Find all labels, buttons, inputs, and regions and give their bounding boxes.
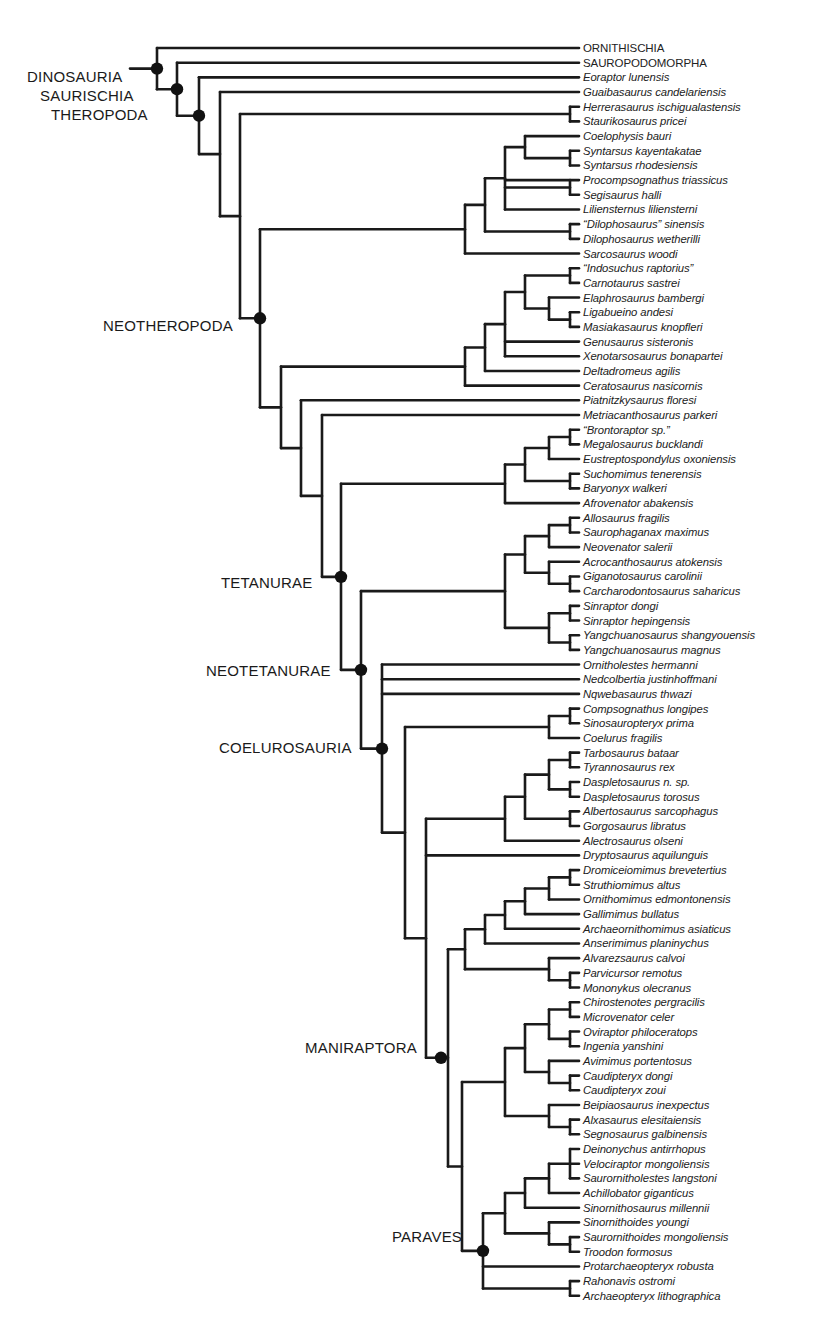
taxon-label: “Indosuchus raptorius” <box>583 261 693 275</box>
taxon-label: Syntarsus kayentakatae <box>583 144 701 158</box>
taxon-label: Deinonychus antirrhopus <box>583 1142 706 1156</box>
clade-label-neotheropoda: NEOTHEROPODA <box>103 318 233 334</box>
taxon-label: Coelurus fragilis <box>583 731 662 745</box>
cladogram: DINOSAURIA SAURISCHIA THEROPODA NEOTHERO… <box>0 0 828 1325</box>
taxon-label: Giganotosaurus carolinii <box>583 569 702 583</box>
node-marker <box>171 83 183 95</box>
taxon-label: Genusaurus sisteronis <box>583 335 693 349</box>
taxon-label: Sinraptor dongi <box>583 599 658 613</box>
node-marker <box>435 1052 447 1064</box>
taxon-label: Neovenator salerii <box>583 540 672 554</box>
taxon-label: Elaphrosaurus bambergi <box>583 291 704 305</box>
taxon-label: Carcharodontosaurus saharicus <box>583 584 740 598</box>
taxon-label: Troodon formosus <box>583 1245 672 1259</box>
clade-label-neotetanurae: NEOTETANURAE <box>206 663 331 679</box>
taxon-label: Masiakasaurus knopfleri <box>583 320 703 334</box>
node-marker <box>193 110 205 122</box>
taxon-label: Compsognathus longipes <box>583 702 708 716</box>
taxon-label: Yangchuanosaurus shangyouensis <box>583 628 755 642</box>
taxon-label: Saurornithoides mongoliensis <box>583 1230 728 1244</box>
taxon-label: Alvarezsaurus calvoi <box>583 951 685 965</box>
taxon-label: Sinornithosaurus millennii <box>583 1201 709 1215</box>
taxon-label: Archaeopteryx lithographica <box>583 1289 720 1303</box>
taxon-label: Struthiomimus altus <box>583 878 680 892</box>
taxon-label: Microvenator celer <box>583 1010 674 1024</box>
taxon-label: Ornithomimus edmontonensis <box>583 892 730 906</box>
node-marker <box>355 664 367 676</box>
taxon-label: Caudipteryx dongi <box>583 1069 672 1083</box>
clade-label-dinosauria: DINOSAURIA <box>27 69 122 85</box>
taxon-label: ORNITHISCHIA <box>583 41 664 55</box>
taxon-label: Anserimimus planinychus <box>583 936 709 950</box>
taxon-label: Albertosaurus sarcophagus <box>583 804 718 818</box>
taxon-label: Baryonyx walkeri <box>583 481 667 495</box>
clade-label-tetanurae: TETANURAE <box>221 575 313 591</box>
taxon-label: Ingenia yanshini <box>583 1039 663 1053</box>
taxon-label: Afrovenator abakensis <box>583 496 693 510</box>
taxon-label: Velociraptor mongoliensis <box>583 1157 709 1171</box>
taxon-label: Gorgosaurus libratus <box>583 819 686 833</box>
taxon-label: Sinosauropteryx prima <box>583 716 694 730</box>
taxon-label: Segnosaurus galbinensis <box>583 1127 707 1141</box>
taxon-label: Allosaurus fragilis <box>583 511 670 525</box>
taxon-label: Procompsognathus triassicus <box>583 173 728 187</box>
taxon-label: Eoraptor lunensis <box>583 70 669 84</box>
taxon-label: Saurophaganax maximus <box>583 525 709 539</box>
taxon-label: Acrocanthosaurus atokensis <box>583 555 722 569</box>
taxon-label: Piatnitzkysaurus floresi <box>583 393 696 407</box>
taxon-label: Xenotarsosaurus bonapartei <box>583 349 722 363</box>
taxon-label: Liliensternus liliensterni <box>583 202 697 216</box>
taxon-label: Protarchaeopteryx robusta <box>583 1259 714 1273</box>
taxon-label: Herrerasaurus ischigualastensis <box>583 100 741 114</box>
taxon-label: “Dilophosaurus” sinensis <box>583 217 704 231</box>
clade-label-saurischia: SAURISCHIA <box>40 88 134 104</box>
taxon-label: Oviraptor philoceratops <box>583 1025 698 1039</box>
node-marker <box>254 312 266 324</box>
tree-branches <box>0 0 828 1325</box>
taxon-label: Caudipteryx zoui <box>583 1083 666 1097</box>
taxon-label: Mononykus olecranus <box>583 981 691 995</box>
taxon-label: Achillobator giganticus <box>583 1186 694 1200</box>
taxon-label: Yangchuanosaurus magnus <box>583 643 721 657</box>
taxon-label: Alectrosaurus olseni <box>583 834 683 848</box>
taxon-label: Chirostenotes pergracilis <box>583 995 705 1009</box>
taxon-label: Dilophosaurus wetherilli <box>583 232 700 246</box>
taxon-label: Rahonavis ostromi <box>583 1274 675 1288</box>
node-marker <box>477 1245 489 1257</box>
taxon-label: SAUROPODOMORPHA <box>583 56 707 70</box>
taxon-label: Nedcolbertia justinhoffmani <box>583 672 717 686</box>
taxon-label: Daspletosaurus torosus <box>583 790 699 804</box>
taxon-label: Guaibasaurus candelariensis <box>583 85 726 99</box>
taxon-label: Carnotaurus sastrei <box>583 276 680 290</box>
taxon-label: Suchomimus tenerensis <box>583 467 701 481</box>
taxon-label: Sinraptor hepingensis <box>583 614 690 628</box>
taxon-label: Deltadromeus agilis <box>583 364 680 378</box>
taxon-label: Parvicursor remotus <box>583 966 682 980</box>
taxon-label: Gallimimus bullatus <box>583 907 679 921</box>
clade-label-theropoda: THEROPODA <box>51 107 148 123</box>
taxon-label: Syntarsus rhodesiensis <box>583 158 698 172</box>
taxon-label: Sarcosaurus woodi <box>583 247 677 261</box>
taxon-label: Beipiaosaurus inexpectus <box>583 1098 709 1112</box>
taxon-label: Nqwebasaurus thwazi <box>583 687 692 701</box>
taxon-label: Ceratosaurus nasicornis <box>583 379 703 393</box>
taxon-label: Ornitholestes hermanni <box>583 658 698 672</box>
node-marker <box>376 742 388 754</box>
taxon-label: Eustreptospondylus oxoniensis <box>583 452 736 466</box>
node-marker <box>151 62 163 74</box>
taxon-label: Saurornitholestes langstoni <box>583 1171 717 1185</box>
taxon-label: Staurikosaurus pricei <box>583 114 686 128</box>
taxon-label: Megalosaurus bucklandi <box>583 437 703 451</box>
taxon-label: Daspletosaurus n. sp. <box>583 775 690 789</box>
taxon-label: Dromiceiomimus brevetertius <box>583 863 727 877</box>
taxon-label: Segisaurus halli <box>583 188 661 202</box>
clade-label-maniraptora: MANIRAPTORA <box>305 1040 417 1056</box>
taxon-label: Dryptosaurus aquilunguis <box>583 848 708 862</box>
taxon-label: Avimimus portentosus <box>583 1054 692 1068</box>
taxon-label: Ligabueino andesi <box>583 305 673 319</box>
taxon-label: Alxasaurus elesitaiensis <box>583 1113 701 1127</box>
taxon-label: Sinornithoides youngi <box>583 1215 689 1229</box>
taxon-label: Tarbosaurus bataar <box>583 746 679 760</box>
node-marker <box>335 571 347 583</box>
taxon-label: Archaeornithomimus asiaticus <box>583 922 731 936</box>
